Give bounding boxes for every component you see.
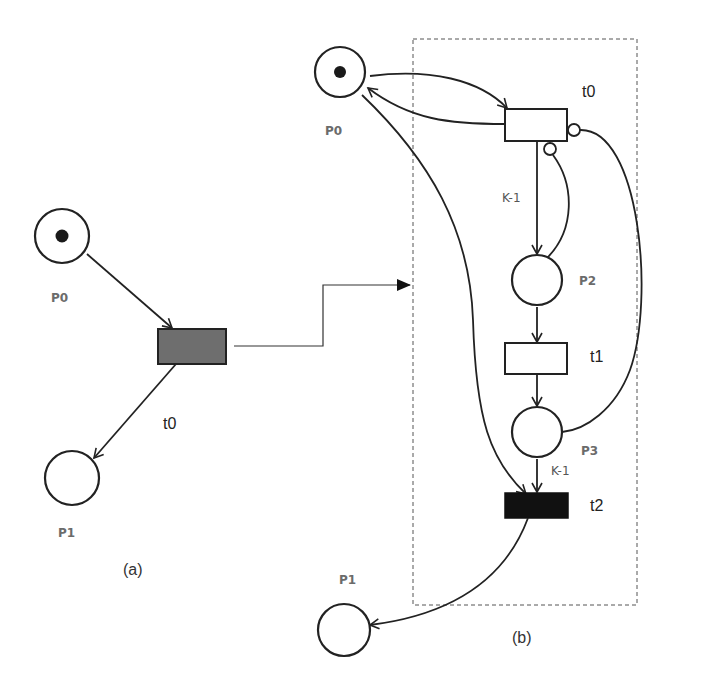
inhibitor-p2-t0 [544,143,556,155]
place-label-p0-b: P0 [325,124,342,138]
place-p1-a [45,451,99,505]
panel-a: P0 t0 P1 (a) [35,209,226,578]
transition-t1-b [505,343,567,374]
arc-p0-t2-b [362,95,526,494]
transition-t0-b [505,109,567,141]
place-label-p3-b: P3 [581,444,598,458]
petri-net-diagram: P0 t0 P1 (a) P0 t0 [0,0,704,687]
weight-label-t0-p2: K-1 [502,191,521,205]
arc-p2-t0-inhibitor [547,155,569,258]
inhibitor-p3-t0 [568,124,580,136]
transition-t0-a [158,329,226,364]
weight-label-p3-t2: K-1 [551,464,570,478]
transition-label-t2-b: t2 [590,497,603,514]
arc-t0-p1-a [94,364,176,458]
transition-label-t0-b: t0 [582,83,595,100]
place-label-p0-a: P0 [51,291,68,305]
token-icon [56,230,69,243]
transition-t2-b [505,493,568,518]
token-icon [334,66,346,78]
arc-p3-t0-inhibitor [562,130,642,432]
arc-t2-p1-b [370,518,528,625]
place-p2-b [512,255,562,305]
transition-label-t1-b: t1 [590,348,603,365]
caption-a: (a) [123,561,143,578]
panel-b: P0 t0 K-1 P2 t1 P3 K-1 [315,39,642,656]
caption-b: (b) [512,629,532,646]
refinement-arrow [234,285,410,346]
place-label-p1-b: P1 [339,573,356,587]
arc-p0-t0-a [87,254,172,328]
place-p0-a [35,209,89,263]
place-p1-b [318,604,370,656]
transition-label-t0-a: t0 [163,415,176,432]
arc-t0-p0-b [368,88,505,124]
place-p3-b [512,407,562,457]
place-label-p2-b: P2 [579,274,596,288]
place-label-p1-a: P1 [58,526,75,540]
place-p0-b [315,47,365,97]
